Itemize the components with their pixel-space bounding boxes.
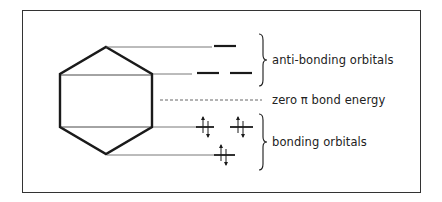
bonding-orbital-lowest bbox=[214, 144, 235, 166]
bonding-orbital-left bbox=[196, 116, 214, 138]
orbital-diagram: anti-bonding orbitals zero π bond energy… bbox=[0, 0, 442, 202]
bonding-brace-icon bbox=[259, 114, 267, 170]
antibonding-label: anti-bonding orbitals bbox=[272, 53, 394, 67]
bonding-orbital-right bbox=[230, 116, 253, 138]
antibonding-brace-icon bbox=[259, 34, 267, 86]
bonding-label: bonding orbitals bbox=[272, 135, 367, 149]
benzene-hexagon bbox=[60, 47, 152, 154]
zero-energy-label: zero π bond energy bbox=[272, 93, 385, 107]
